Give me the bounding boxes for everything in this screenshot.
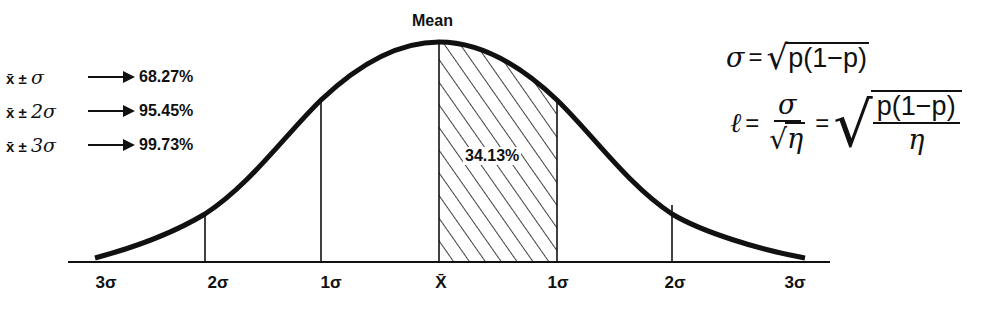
rule-expr-sigma: 3σ bbox=[31, 134, 56, 156]
axis-label-mean: X̄ bbox=[435, 273, 446, 293]
radical-icon: √ bbox=[833, 94, 873, 156]
sigma-over-root-n: σ √η bbox=[769, 90, 805, 156]
p-fraction: p(1−p) η bbox=[873, 92, 960, 156]
radicand: p(1−p) η bbox=[871, 90, 962, 156]
rule-expr-prefix: x̄ ± bbox=[6, 104, 27, 121]
equals-sign: = bbox=[745, 109, 759, 137]
arrow-right-icon bbox=[88, 144, 133, 146]
rule-percentage: 68.27% bbox=[139, 68, 193, 86]
arrow-right-icon bbox=[88, 110, 133, 112]
axis-label-plus-2sigma: 2σ bbox=[664, 273, 685, 293]
rule-3sigma: x̄ ± 3σ 99.73% bbox=[6, 134, 193, 156]
equals-sign: = bbox=[815, 109, 829, 137]
fraction-denominator: √η bbox=[769, 122, 805, 156]
square-root: √ p(1−p) bbox=[766, 40, 868, 74]
mean-label: Mean bbox=[412, 12, 453, 30]
fraction-denominator: η bbox=[908, 124, 924, 156]
axis-label-minus-1sigma: 1σ bbox=[320, 273, 341, 293]
center-region-percentage: 34.13% bbox=[463, 147, 521, 165]
fraction-numerator: σ bbox=[774, 90, 800, 122]
radical-icon: √ bbox=[766, 40, 788, 74]
equals-sign: = bbox=[748, 43, 762, 71]
ell-symbol: ℓ bbox=[730, 107, 741, 139]
rule-1sigma: x̄ ± σ 68.27% bbox=[6, 66, 193, 88]
rule-percentage: 95.45% bbox=[139, 102, 193, 120]
axis-label-minus-3sigma: 3σ bbox=[95, 273, 116, 293]
sigma-symbol: σ bbox=[726, 42, 744, 73]
arrow-right-icon bbox=[88, 76, 133, 78]
fraction-numerator: p(1−p) bbox=[873, 92, 960, 124]
rule-expr-sigma: σ bbox=[31, 66, 44, 88]
rule-expr-prefix: x̄ ± bbox=[6, 138, 27, 155]
square-root-fraction: √ p(1−p) η bbox=[833, 90, 961, 156]
rule-2sigma: x̄ ± 2σ 95.45% bbox=[6, 100, 193, 122]
axis-label-minus-2sigma: 2σ bbox=[207, 273, 228, 293]
rule-percentage: 99.73% bbox=[139, 136, 193, 154]
rule-expr-prefix: x̄ ± bbox=[6, 70, 27, 87]
radicand: η bbox=[785, 122, 805, 154]
radicand: p(1−p) bbox=[786, 42, 869, 74]
sigma-formula: σ = √ p(1−p) bbox=[726, 40, 869, 74]
axis-label-plus-3sigma: 3σ bbox=[784, 273, 805, 293]
ell-formula: ℓ = σ √η = √ p(1−p) η bbox=[730, 90, 962, 156]
axis-label-plus-1sigma: 1σ bbox=[547, 273, 568, 293]
rule-expr-sigma: 2σ bbox=[31, 100, 56, 122]
